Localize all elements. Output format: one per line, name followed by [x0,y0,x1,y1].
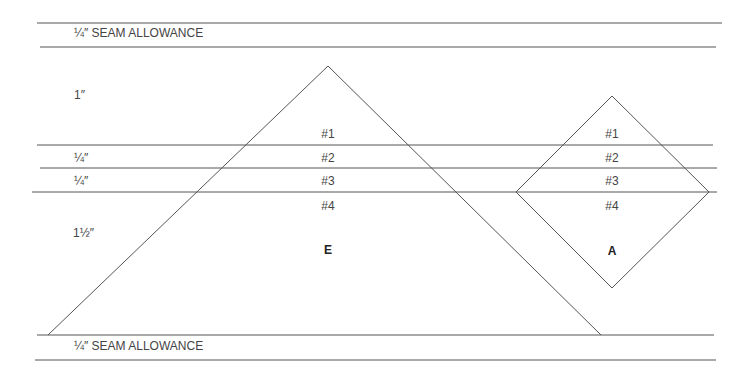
piece-e-section-4: #4 [308,199,348,213]
piece-e-section-3: #3 [308,174,348,188]
piece-a-section-3: #3 [592,174,632,188]
measurement-row-2: ¼″ [74,151,88,165]
piece-e-label: E [313,243,343,257]
piece-e-section-2: #2 [308,151,348,165]
piece-a-section-2: #2 [592,151,632,165]
template-lines [0,0,752,378]
measurement-row-1: 1″ [74,88,85,102]
piece-a-section-4: #4 [592,199,632,213]
piece-a-section-1: #1 [592,127,632,141]
piece-a-label: A [597,244,627,258]
piece-e-section-1: #1 [308,127,348,141]
seam-allowance-bottom-label: ¼″ SEAM ALLOWANCE [74,339,203,353]
measurement-row-4: 1½″ [73,226,94,240]
seam-allowance-top-label: ¼″ SEAM ALLOWANCE [74,26,203,40]
measurement-row-3: ¼″ [74,174,88,188]
